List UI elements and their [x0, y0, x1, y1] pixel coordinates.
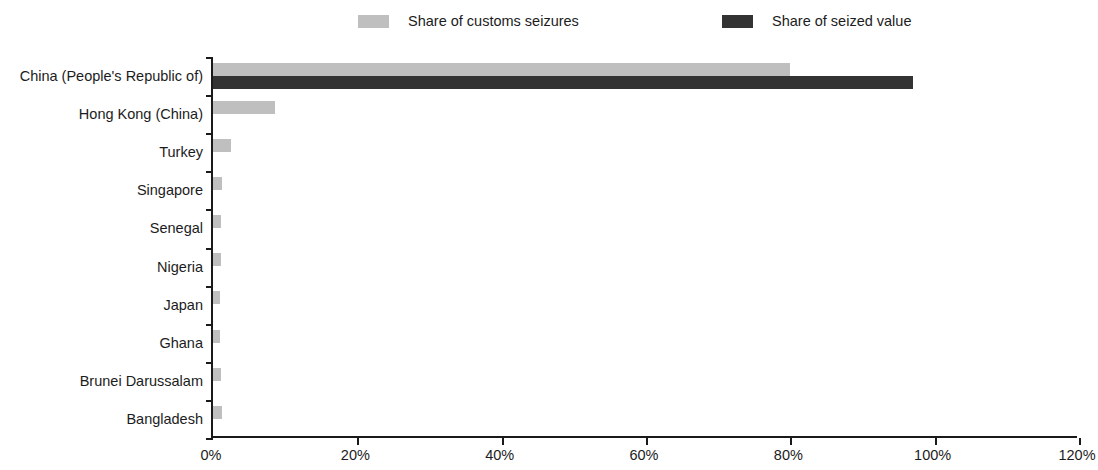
bar-0 — [213, 139, 231, 152]
category-label: Japan — [0, 297, 203, 313]
bar-0 — [213, 177, 222, 190]
category-axis-tick — [206, 286, 213, 288]
bar-0 — [213, 63, 790, 76]
bar-0 — [213, 291, 220, 304]
bar-0 — [213, 253, 221, 266]
category-label: China (People's Republic of) — [0, 68, 203, 84]
value-axis-tick — [790, 438, 792, 445]
category-label: Hong Kong (China) — [0, 106, 203, 122]
category-axis-tick — [206, 95, 213, 97]
bar-0 — [213, 330, 220, 343]
legend-swatch-icon-seized-value — [722, 15, 753, 28]
category-axis-tick — [206, 362, 213, 364]
legend-entry-share-of-seized-value: Share of seized value — [722, 12, 911, 30]
value-axis-tick-label: 80% — [774, 446, 803, 464]
value-axis-tick-label: 100% — [914, 446, 951, 464]
category-label: Bangladesh — [0, 411, 203, 427]
category-label: Singapore — [0, 182, 203, 198]
value-axis-tick-label: 0% — [201, 446, 222, 464]
value-axis-labels: 0%20%40%60%80%100%120% — [0, 446, 1098, 468]
category-axis-tick — [206, 324, 213, 326]
value-axis-tick — [646, 438, 648, 445]
legend-entry-share-of-customs-seizures: Share of customs seizures — [358, 12, 579, 30]
bar-0 — [213, 406, 222, 419]
bar-0 — [213, 368, 221, 381]
value-axis-tick — [1079, 438, 1081, 445]
category-label: Turkey — [0, 144, 203, 160]
category-axis-tick — [206, 248, 213, 250]
category-axis-tick — [206, 400, 213, 402]
value-axis-tick — [502, 438, 504, 445]
category-axis-tick — [206, 133, 213, 135]
value-axis-tick-label: 40% — [485, 446, 514, 464]
value-axis-tick-label: 120% — [1058, 446, 1095, 464]
category-axis-tick — [206, 57, 213, 59]
plot-area — [211, 57, 1077, 438]
legend-label-customs-seizures: Share of customs seizures — [408, 12, 579, 30]
bar-0 — [213, 215, 221, 228]
category-axis-tick — [206, 438, 213, 440]
legend-label-seized-value: Share of seized value — [772, 12, 911, 30]
bar-0 — [213, 101, 275, 114]
legend-swatch-icon-customs-seizures — [358, 15, 389, 28]
category-label: Ghana — [0, 335, 203, 351]
bar-1 — [213, 76, 913, 89]
chart-legend: Share of customs seizures Share of seize… — [0, 0, 1098, 40]
category-label: Nigeria — [0, 259, 203, 275]
value-axis-tick — [357, 438, 359, 445]
value-axis-tick-label: 20% — [341, 446, 370, 464]
category-axis-tick — [206, 171, 213, 173]
value-axis-tick-label: 60% — [629, 446, 658, 464]
category-label: Senegal — [0, 220, 203, 236]
category-axis-tick — [206, 209, 213, 211]
category-axis-labels: China (People's Republic of)Hong Kong (C… — [0, 57, 203, 438]
bar-chart: Share of customs seizures Share of seize… — [0, 0, 1098, 470]
value-axis-tick — [935, 438, 937, 445]
category-label: Brunei Darussalam — [0, 373, 203, 389]
